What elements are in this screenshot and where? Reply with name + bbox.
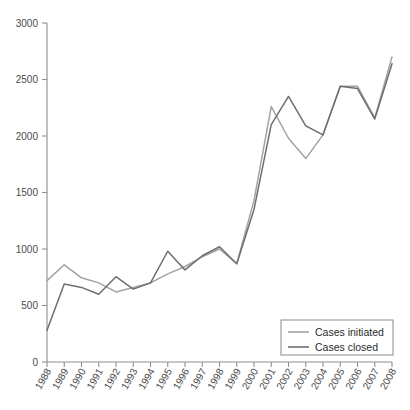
x-tick-label: 2007 — [360, 366, 381, 391]
y-tick-label: 2500 — [16, 74, 39, 85]
x-tick-label: 2008 — [378, 366, 399, 391]
x-tick-label: 2006 — [343, 366, 364, 391]
x-tick-label: 2001 — [257, 366, 278, 391]
chart-legend: Cases initiatedCases closed — [281, 320, 393, 355]
y-tick-label: 3000 — [16, 18, 39, 29]
x-tick-label: 1992 — [102, 366, 123, 391]
line-chart: 050010001500200025003000 198819891990199… — [0, 0, 410, 410]
x-tick-label: 1990 — [67, 366, 88, 391]
y-tick-label: 1500 — [16, 187, 39, 198]
x-tick-label: 2004 — [309, 366, 330, 391]
chart-container: 050010001500200025003000 198819891990199… — [0, 0, 410, 410]
x-tick-label: 1993 — [119, 366, 140, 391]
series-group — [47, 57, 392, 330]
x-tick-label: 1998 — [205, 366, 226, 391]
x-tick-label: 1995 — [153, 366, 174, 391]
y-axis-tick-labels: 050010001500200025003000 — [16, 18, 39, 368]
x-tick-marks — [47, 362, 392, 367]
x-tick-label: 1996 — [171, 366, 192, 391]
y-tick-label: 0 — [32, 357, 38, 368]
x-tick-label: 1991 — [84, 366, 105, 391]
y-tick-marks — [42, 23, 47, 362]
x-tick-label: 2000 — [240, 366, 261, 391]
legend-label-cases-closed: Cases closed — [315, 341, 378, 353]
series-line-cases-initiated — [47, 57, 392, 292]
y-tick-label: 1000 — [16, 244, 39, 255]
y-tick-label: 2000 — [16, 131, 39, 142]
x-tick-label: 1989 — [50, 366, 71, 391]
x-tick-label: 2002 — [274, 366, 295, 391]
axes-group — [42, 23, 392, 367]
x-axis-tick-labels: 1988198919901991199219931994199519961997… — [33, 366, 399, 391]
x-tick-label: 2003 — [291, 366, 312, 391]
x-tick-label: 1994 — [136, 366, 157, 391]
x-tick-label: 1999 — [222, 366, 243, 391]
x-tick-label: 2005 — [326, 366, 347, 391]
x-tick-label: 1997 — [188, 366, 209, 391]
legend-label-cases-initiated: Cases initiated — [315, 326, 384, 338]
y-tick-label: 500 — [21, 300, 38, 311]
x-tick-label: 1988 — [33, 366, 54, 391]
series-line-cases-closed — [47, 64, 392, 331]
